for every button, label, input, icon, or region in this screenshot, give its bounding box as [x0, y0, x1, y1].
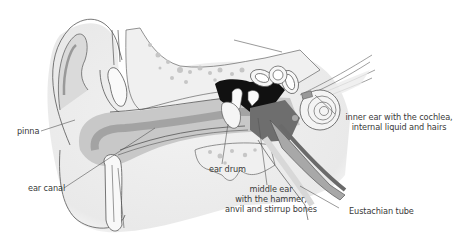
label-inner-ear: inner ear with the cochlea, internal liq…: [344, 112, 453, 132]
inner-ear-line-1: inner ear with the cochlea,: [344, 112, 453, 122]
label-ear-canal: ear canal: [28, 183, 65, 193]
middle-ear-line-3: anvil and stirrup bones: [211, 204, 331, 214]
label-middle-ear: middle ear with the hammer, anvil and st…: [211, 184, 331, 214]
ear-anatomy-diagram: pinna ear canal ear drum middle ear with…: [0, 0, 453, 247]
inner-ear-line-2: internal liquid and hairs: [344, 122, 453, 132]
label-ear-drum: ear drum: [209, 164, 246, 174]
label-eustachian-tube: Eustachian tube: [349, 206, 414, 216]
middle-ear-line-2: with the hammer,: [211, 194, 331, 204]
middle-ear-line-1: middle ear: [211, 184, 331, 194]
label-pinna: pinna: [17, 126, 39, 136]
